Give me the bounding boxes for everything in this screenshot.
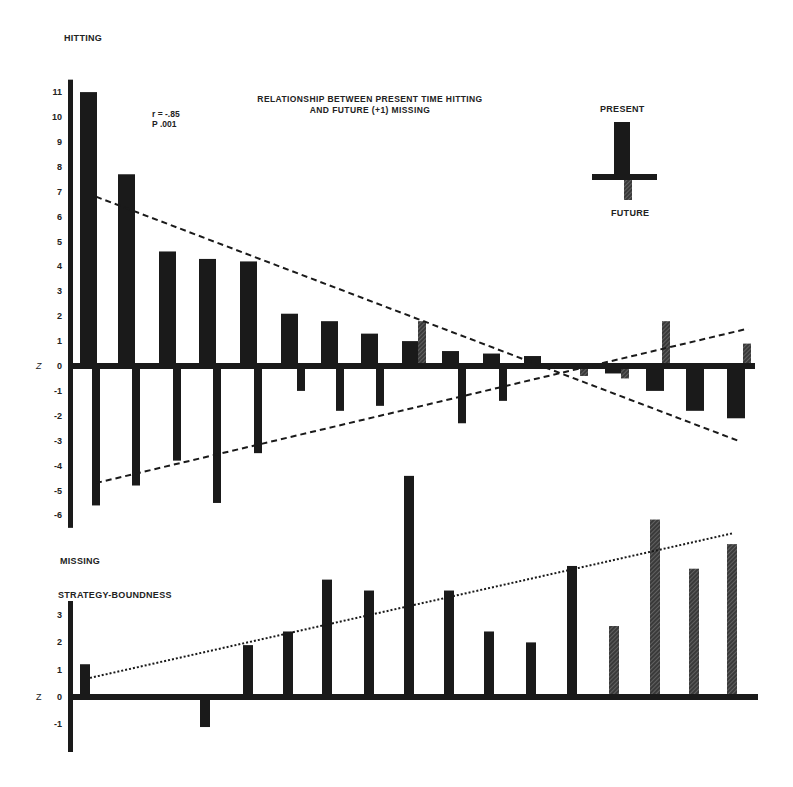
missing-bar bbox=[662, 321, 670, 366]
y-tick-label: -5 bbox=[54, 486, 62, 496]
y-tick-label: -1 bbox=[54, 719, 62, 729]
missing-bar bbox=[418, 321, 426, 366]
strategy-bar bbox=[404, 476, 414, 697]
strategy-bar bbox=[80, 664, 90, 697]
missing-bar bbox=[92, 366, 100, 505]
y-tick-label: 1 bbox=[57, 665, 62, 675]
missing-bar bbox=[254, 366, 262, 453]
missing-bar bbox=[336, 366, 344, 411]
hitting-bar bbox=[281, 314, 298, 366]
y-tick-label: -6 bbox=[54, 510, 62, 520]
y-tick-label: 10 bbox=[52, 112, 62, 122]
hitting-bar bbox=[199, 259, 216, 366]
y-tick-label: 8 bbox=[57, 162, 62, 172]
hitting-bar bbox=[686, 366, 704, 411]
y-tick-label: -2 bbox=[54, 411, 62, 421]
strategy-bar bbox=[526, 642, 536, 697]
hitting-bar bbox=[321, 321, 338, 366]
hitting-bar bbox=[402, 341, 419, 366]
missing-bar bbox=[499, 366, 507, 401]
plot-canvas: 11109876543210-1-2-3-4-5-63210-1 bbox=[0, 0, 793, 787]
hitting-bar bbox=[240, 261, 257, 366]
strategy-bar bbox=[283, 631, 293, 697]
strategy-bar bbox=[484, 631, 494, 697]
strategy-bar bbox=[243, 645, 253, 697]
legend-future-bar bbox=[624, 180, 632, 200]
y-tick-label: -4 bbox=[54, 461, 62, 471]
y-tick-label: 3 bbox=[57, 286, 62, 296]
strategy-bar bbox=[322, 580, 332, 697]
hitting-bar bbox=[646, 366, 664, 391]
y-tick-label: 5 bbox=[57, 237, 62, 247]
hitting-bar bbox=[118, 174, 135, 366]
hitting-bar bbox=[361, 334, 378, 366]
legend-present-bar bbox=[614, 122, 630, 176]
hitting-bar bbox=[80, 92, 97, 366]
missing-bar bbox=[458, 366, 466, 423]
missing-bar bbox=[376, 366, 384, 406]
y-tick-label: 1 bbox=[57, 336, 62, 346]
y-tick-label: 6 bbox=[57, 212, 62, 222]
legend-baseline bbox=[592, 174, 657, 180]
y-tick-label: 4 bbox=[57, 261, 62, 271]
y-tick-label: 11 bbox=[52, 87, 62, 97]
y-tick-label: 2 bbox=[57, 637, 62, 647]
y-tick-label: 0 bbox=[57, 692, 62, 702]
y-tick-label: -3 bbox=[54, 436, 62, 446]
y-tick-label: 0 bbox=[57, 361, 62, 371]
y-tick-label: 7 bbox=[57, 187, 62, 197]
y-tick-label: 9 bbox=[57, 137, 62, 147]
strategy-bar bbox=[727, 544, 737, 697]
y-axis-bottom bbox=[68, 601, 73, 752]
strategy-bar bbox=[200, 697, 210, 727]
missing-bar bbox=[213, 366, 221, 503]
y-tick-label: 3 bbox=[57, 610, 62, 620]
hitting-bar bbox=[159, 251, 176, 366]
missing-bar bbox=[743, 344, 751, 366]
y-tick-label: -1 bbox=[54, 386, 62, 396]
strategy-bar bbox=[650, 520, 660, 697]
strategy-bar bbox=[567, 566, 577, 697]
hitting-bar bbox=[727, 366, 745, 418]
chart-root: HITTING RELATIONSHIP BETWEEN PRESENT TIM… bbox=[0, 0, 793, 787]
strategy-bar bbox=[364, 591, 374, 697]
hitting-trendline bbox=[96, 197, 738, 441]
missing-bar bbox=[132, 366, 140, 486]
strategy-bar bbox=[689, 569, 699, 697]
strategy-bar bbox=[444, 591, 454, 697]
missing-bar bbox=[297, 366, 305, 391]
strategy-bar bbox=[609, 626, 619, 697]
y-axis-top bbox=[68, 80, 73, 528]
missing-bar bbox=[173, 366, 181, 461]
zero-baseline-bottom bbox=[70, 694, 758, 700]
y-tick-label: 2 bbox=[57, 311, 62, 321]
zero-baseline-top bbox=[70, 363, 755, 369]
